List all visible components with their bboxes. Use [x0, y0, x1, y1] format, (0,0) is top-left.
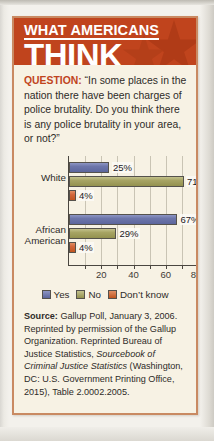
tick-30	[117, 265, 118, 269]
bar-value-aa-yes: 67%	[180, 214, 199, 225]
tick-70	[182, 265, 183, 269]
legend-label-dontknow: Don’t know	[120, 289, 168, 300]
legend-swatch-dontknow-icon	[108, 290, 117, 299]
bar-aa-yes	[69, 214, 177, 225]
bar-white-no	[69, 176, 184, 187]
bar-aa-dontknow	[69, 242, 76, 253]
infographic-box: WHAT AMERICANS THINK QUESTION: “In some …	[12, 16, 198, 415]
gridline-60	[166, 156, 167, 265]
category-label-african-american: AfricanAmerican	[14, 224, 66, 247]
plot-area: 25% 71% 4% 67% 29% 4% 20 40 60 80	[68, 156, 197, 266]
gridline-40	[134, 156, 135, 265]
source-note: Source: Gallup Poll, January 3, 2006. Re…	[24, 310, 187, 398]
bar-value-white-no: 71%	[186, 176, 198, 187]
bar-value-aa-dontknow: 4%	[78, 242, 94, 253]
question-label: QUESTION:	[24, 75, 82, 86]
source-label: Source:	[24, 311, 58, 321]
category-axis: White AfricanAmerican	[14, 156, 66, 266]
bar-value-white-dontknow: 4%	[78, 190, 94, 201]
legend-label-yes: Yes	[54, 289, 70, 300]
gridline-70	[182, 156, 183, 265]
page-background: WHAT AMERICANS THINK QUESTION: “In some …	[0, 0, 214, 441]
bar-chart: White AfricanAmerican	[14, 154, 196, 286]
page-title: THINK	[24, 41, 159, 65]
infographic-header: WHAT AMERICANS THINK	[14, 18, 196, 65]
xtick-label-60: 60	[160, 269, 171, 280]
xtick-label-80: 80	[191, 269, 198, 280]
legend-swatch-no-icon	[76, 290, 85, 299]
bar-white-yes	[69, 162, 109, 173]
question-block: QUESTION: “In some places in the nation …	[24, 74, 187, 147]
category-label-white: White	[14, 172, 66, 184]
tick-80	[197, 265, 198, 269]
tick-50	[150, 265, 151, 269]
header-text-group: WHAT AMERICANS THINK	[24, 21, 159, 65]
legend-label-no: No	[88, 289, 101, 300]
legend-item-dontknow: Don’t know	[108, 289, 168, 300]
bar-white-dontknow	[69, 190, 76, 201]
legend-swatch-yes-icon	[42, 290, 51, 299]
gridline-50	[150, 156, 151, 265]
bar-value-white-yes: 25%	[112, 162, 133, 173]
legend-item-yes: Yes	[42, 289, 70, 300]
tick-10	[85, 265, 86, 269]
bar-value-aa-no: 29%	[119, 228, 140, 239]
legend-item-no: No	[76, 289, 101, 300]
xtick-label-20: 20	[96, 269, 107, 280]
bar-aa-no	[69, 228, 116, 239]
xtick-label-40: 40	[128, 269, 139, 280]
chart-legend: Yes No Don’t know	[14, 289, 196, 300]
gridline-80	[197, 156, 198, 265]
